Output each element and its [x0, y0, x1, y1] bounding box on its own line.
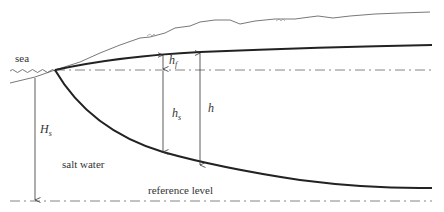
H_s-label-sub: s	[49, 129, 52, 138]
reference-level-label: reference level	[148, 184, 213, 196]
aquifer-diagram: sea Hs hf hs h salt water reference leve…	[0, 0, 444, 212]
salt-water-label: salt water	[62, 158, 105, 170]
H_s-label: Hs	[39, 122, 52, 138]
sea-wave-icon	[10, 70, 55, 73]
h_f-label: hf	[169, 53, 179, 69]
h_s-label-sub: s	[178, 113, 181, 122]
sea-label: sea	[15, 52, 29, 64]
h-label: h	[208, 101, 214, 115]
fresh-salt-interface	[55, 70, 432, 188]
h_s-label: hs	[172, 106, 181, 122]
ground-surface	[10, 12, 430, 83]
h_f-label-sub: f	[175, 60, 179, 69]
